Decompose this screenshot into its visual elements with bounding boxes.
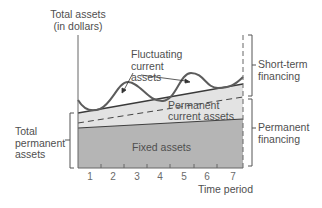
fluctuating-label-line3: assets — [131, 72, 182, 84]
short-term-line1: Short-term — [258, 59, 308, 71]
fluctuating-current-assets-label: Fluctuating current assets — [131, 49, 182, 84]
permanent-financing-bracket — [248, 99, 256, 166]
short-term-financing-label: Short-term financing — [258, 59, 308, 82]
short-term-line2: financing — [258, 71, 308, 83]
permanent-financing-line2: financing — [258, 134, 309, 146]
total-permanent-assets-bracket — [65, 113, 74, 168]
left-label-line3: assets — [15, 149, 65, 161]
x-tick-5: 5 — [179, 171, 189, 182]
x-tick-3: 3 — [132, 171, 142, 182]
y-axis-label: Total assets (in dollars) — [50, 9, 106, 32]
permanent-current-label-line2: current assets — [168, 111, 234, 123]
total-permanent-assets-label: Total permanent assets — [15, 126, 65, 161]
permanent-financing-label: Permanent financing — [258, 122, 309, 145]
x-tick-1: 1 — [85, 171, 95, 182]
fluctuating-label-line1: Fluctuating — [131, 49, 182, 61]
permanent-financing-line1: Permanent — [258, 122, 309, 134]
x-tick-7: 7 — [228, 171, 238, 182]
x-axis-label: Time period — [198, 184, 253, 196]
left-label-line1: Total — [15, 126, 65, 138]
y-axis-label-line2: (in dollars) — [50, 21, 106, 33]
fixed-assets-label: Fixed assets — [132, 142, 191, 154]
x-tick-2: 2 — [108, 171, 118, 182]
short-term-financing-bracket — [248, 35, 256, 96]
y-axis-label-line1: Total assets — [50, 9, 106, 21]
permanent-current-assets-label-2: current assets — [168, 111, 234, 123]
x-tick-6: 6 — [202, 171, 212, 182]
x-tick-4: 4 — [155, 171, 165, 182]
